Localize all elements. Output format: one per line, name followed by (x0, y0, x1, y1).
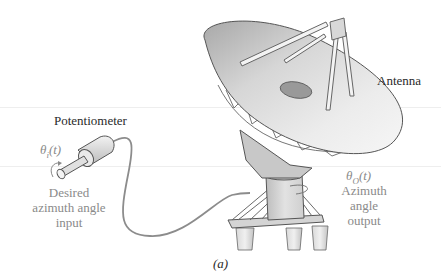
input-symbol: θi(t) (40, 142, 61, 163)
potentiometer-label: Potentiometer (54, 113, 127, 128)
figure-caption: (a) (213, 256, 228, 271)
output-desc-line-1: Azimuth (336, 183, 392, 198)
output-symbol-arg: (t) (359, 168, 371, 183)
antenna-label: Antenna (377, 73, 421, 88)
dish-antenna (204, 21, 403, 154)
input-desc-line-1: Desired (20, 185, 118, 200)
output-desc-line-3: output (336, 213, 392, 228)
input-desc-line-3: input (20, 215, 118, 230)
antenna-system-illustration (0, 0, 441, 278)
input-description: Desired azimuth angle input (20, 185, 118, 230)
pedestal (266, 172, 307, 220)
output-description: Azimuth angle output (336, 183, 392, 228)
input-desc-line-2: azimuth angle (20, 200, 118, 215)
output-desc-line-2: angle (336, 198, 392, 213)
support-legs (236, 226, 328, 250)
input-symbol-arg: (t) (49, 142, 61, 157)
